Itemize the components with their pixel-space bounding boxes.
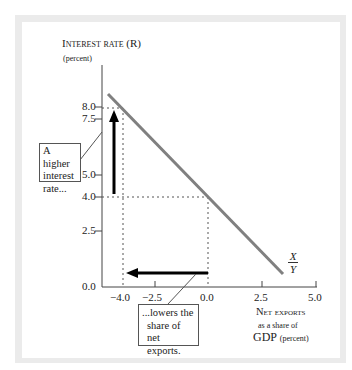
y-axis-title-text: Interest rate xyxy=(62,37,124,49)
up-arrow-head xyxy=(109,110,119,122)
y-ticks xyxy=(95,107,102,231)
callout-lower-exports: ...lowers the share of net exports. xyxy=(138,304,199,346)
callout-left-line3: rate... xyxy=(43,183,77,196)
curve-label-numerator: X xyxy=(288,250,298,263)
x-tick-5: 5.0 xyxy=(308,292,322,303)
callout-left-leader xyxy=(80,132,102,160)
x-tick-2-5: 2.5 xyxy=(254,292,268,303)
y-tick-4: 4.0 xyxy=(82,191,96,202)
y-tick-2-5: 2.5 xyxy=(82,225,96,236)
callout-bottom-line1: ...lowers the xyxy=(142,307,195,320)
callout-bottom-leader xyxy=(168,274,196,304)
callout-bottom-line3: net exports. xyxy=(142,332,195,357)
curve-label-denominator: Y xyxy=(288,263,298,275)
x-axis-title-line1: Net exports xyxy=(256,306,305,318)
x-axis-unit: (percent) xyxy=(280,334,309,343)
callout-higher-rate: A higher interest rate... xyxy=(39,143,81,182)
y-tick-0: 0.0 xyxy=(82,281,96,292)
guide-lines xyxy=(102,108,208,287)
callout-left-line2: interest xyxy=(43,170,77,183)
x-axis-title-line3: GDP (percent) xyxy=(253,331,309,345)
y-tick-7-5: 7.5 xyxy=(82,113,96,124)
y-axis-unit: (percent) xyxy=(63,53,92,65)
x-tick-0: 0.0 xyxy=(200,292,214,303)
x-tick-neg2-5: −2.5 xyxy=(142,292,162,303)
left-arrow-head xyxy=(126,268,138,278)
xy-curve xyxy=(108,94,283,274)
callout-bottom-line2: share of xyxy=(142,320,195,333)
y-tick-8: 8.0 xyxy=(82,101,96,112)
x-ticks xyxy=(155,281,316,287)
curve-label: X Y xyxy=(288,250,298,275)
y-axis-variable: (R) xyxy=(126,37,141,49)
y-tick-5: 5.0 xyxy=(82,169,96,180)
y-axis-title: Interest rate (R) xyxy=(62,37,141,49)
callout-left-line1: A higher xyxy=(43,145,77,170)
x-axis-gdp: GDP xyxy=(253,330,277,344)
x-tick-neg4: −4.0 xyxy=(110,292,130,303)
